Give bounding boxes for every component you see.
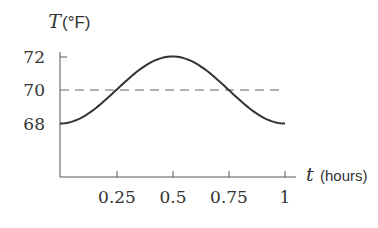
y-tick-label-72: 72	[23, 47, 45, 67]
x-axis-var: t	[306, 163, 314, 185]
x-axis-unit: (hours)	[320, 167, 368, 184]
y-axis-var: T	[48, 10, 62, 32]
x-tick-label-1: 1	[280, 187, 291, 207]
chart-svg: T (°F) 72 70 68 0.25 0.5 0.75 1 t (hours…	[0, 0, 378, 228]
x-tick-label-025: 0.25	[98, 187, 136, 207]
chart: T (°F) 72 70 68 0.25 0.5 0.75 1 t (hours…	[0, 0, 378, 228]
y-tick-label-68: 68	[23, 114, 45, 134]
x-tick-label-075: 0.75	[210, 187, 248, 207]
y-axis-unit: (°F)	[62, 13, 91, 32]
y-tick-label-70: 70	[23, 80, 45, 100]
x-tick-label-05: 0.5	[159, 187, 186, 207]
